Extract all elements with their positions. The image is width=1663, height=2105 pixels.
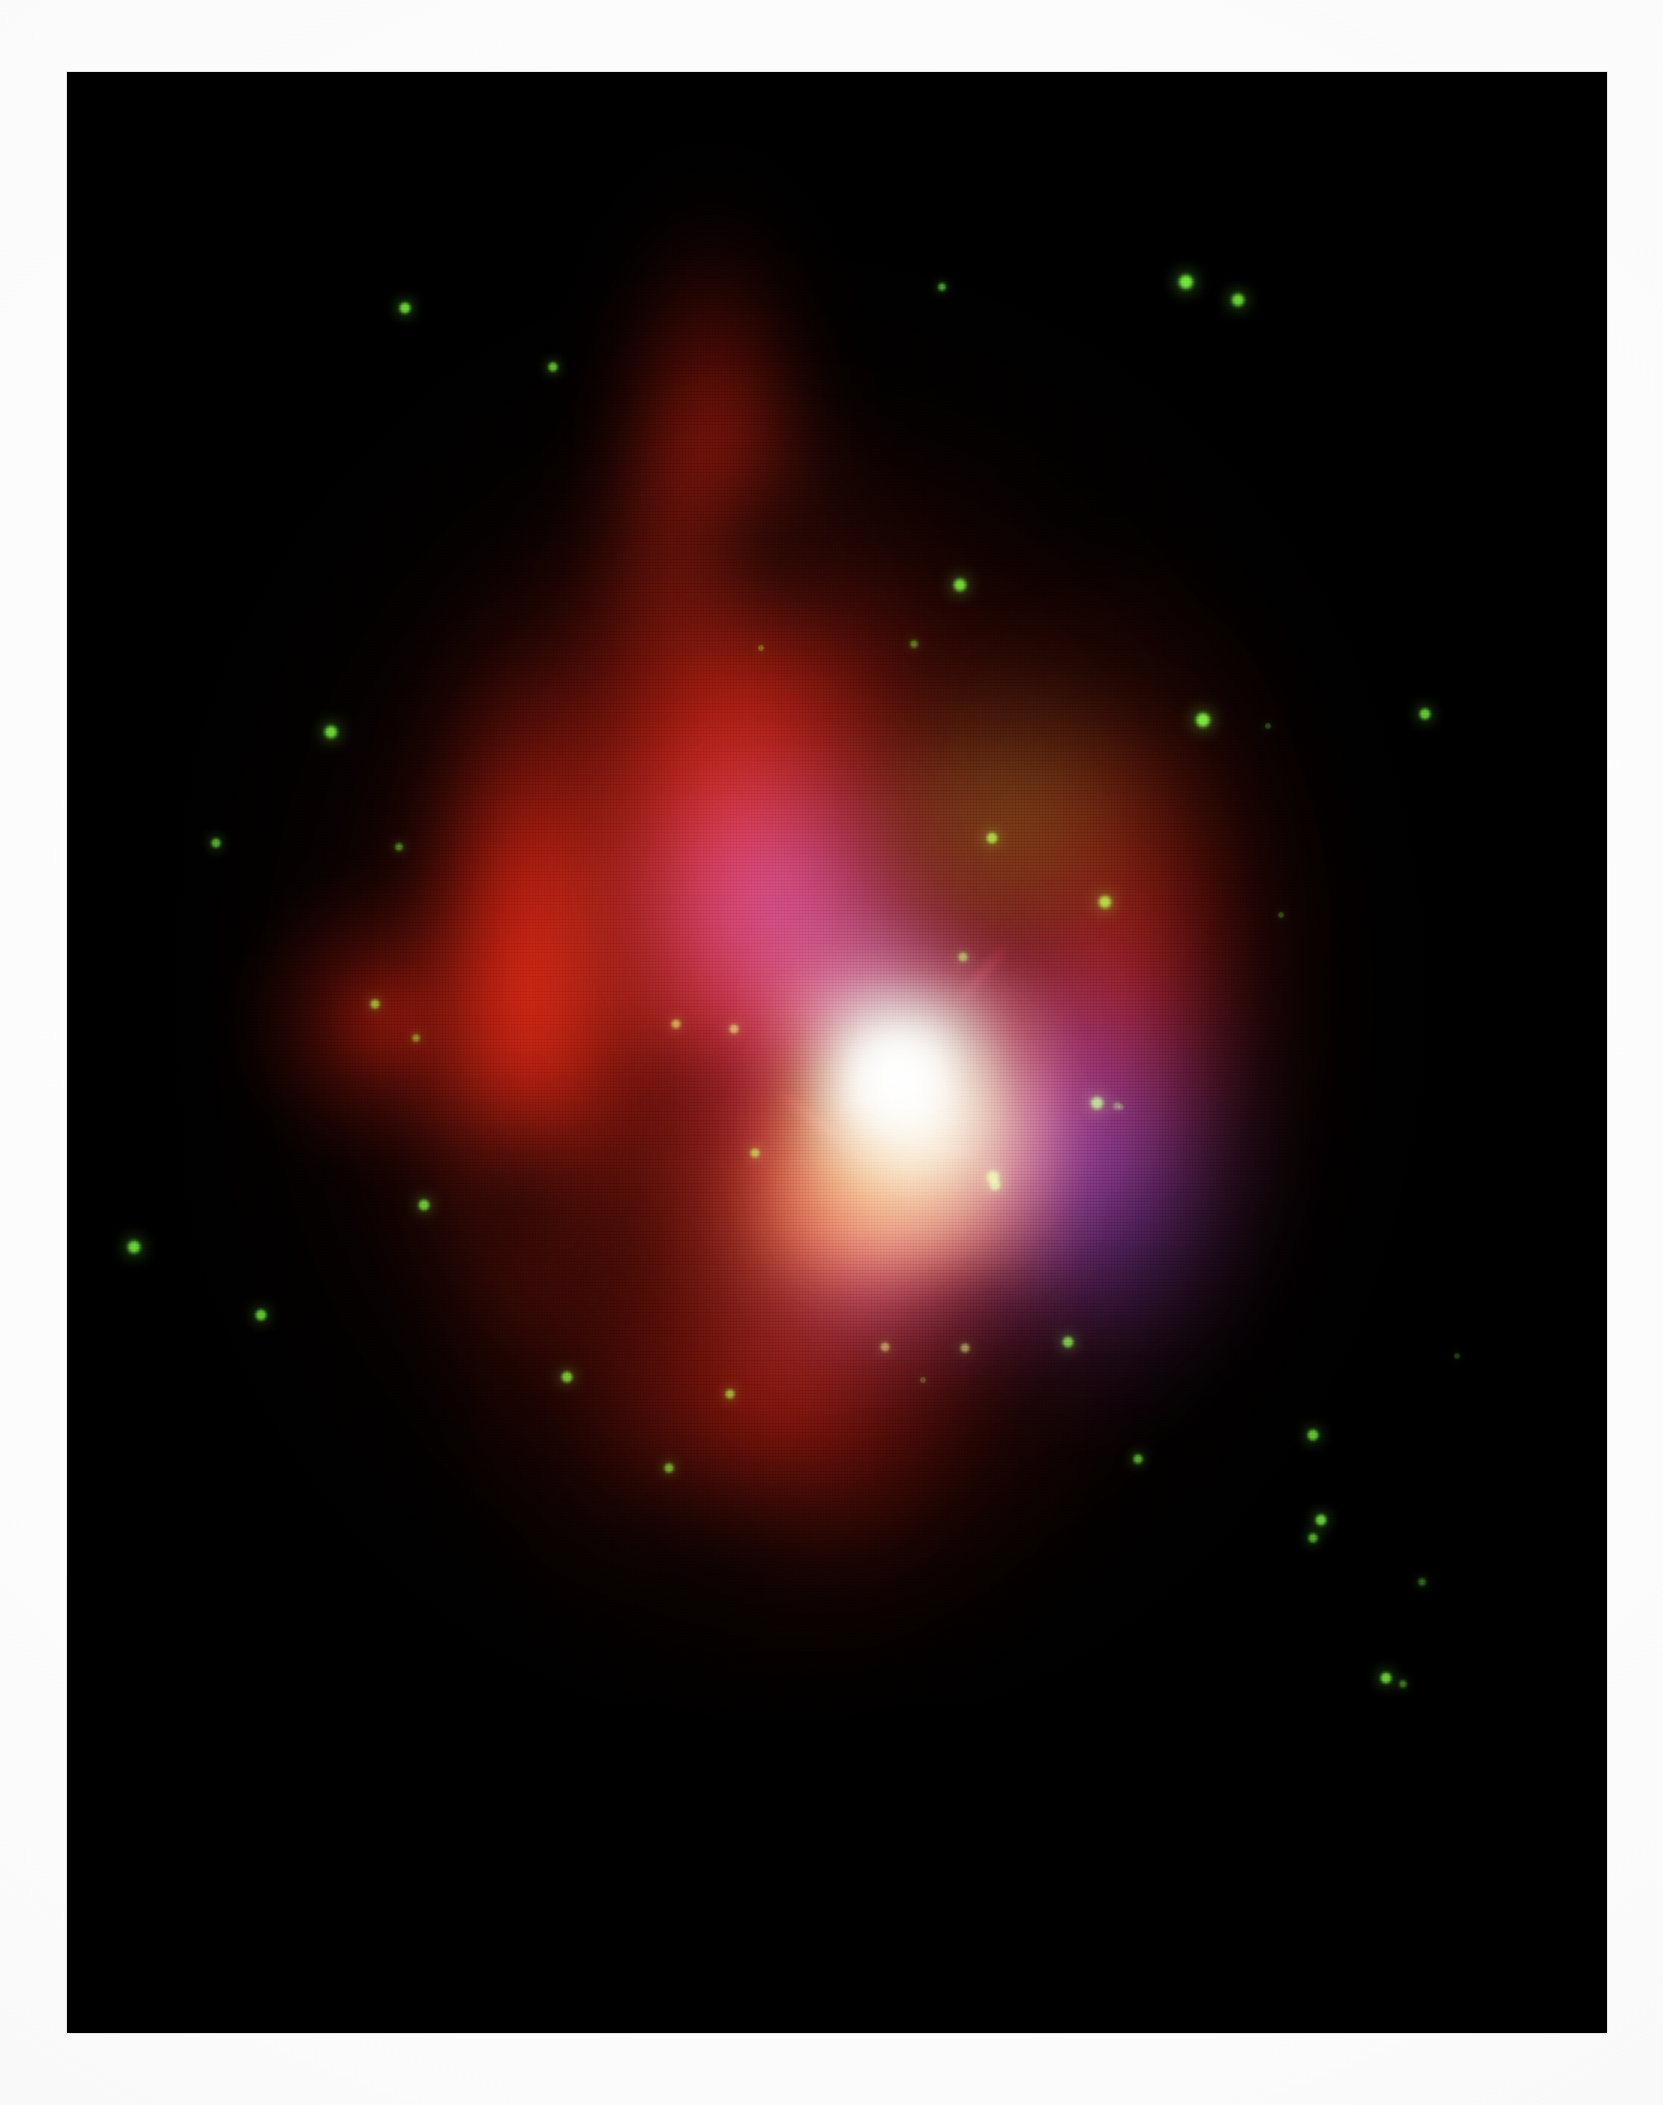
sky-background <box>67 72 1607 2033</box>
astronomy-image-plate <box>67 72 1607 2033</box>
printed-page <box>0 0 1663 2105</box>
